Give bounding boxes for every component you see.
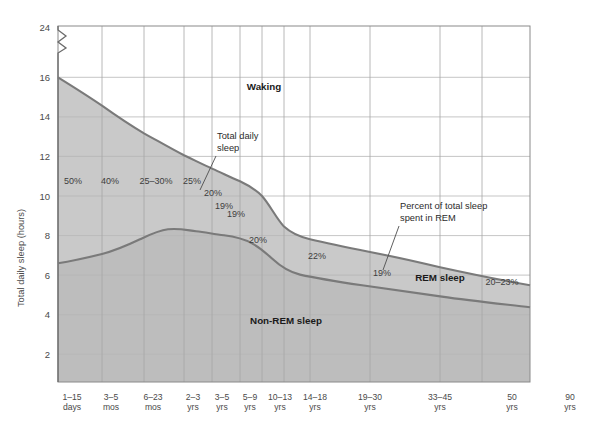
x-tick-1-line1: 3–5 bbox=[104, 392, 119, 402]
x-tick-6-line2: yrs bbox=[274, 402, 285, 412]
y-tick-8: 8 bbox=[45, 230, 50, 241]
y-tick-12: 12 bbox=[39, 151, 50, 162]
x-tick-6-line1: 10–13 bbox=[268, 392, 292, 402]
x-tick-4-line1: 3–5 bbox=[215, 392, 230, 402]
x-tick-8-line2: yrs bbox=[364, 402, 375, 412]
y-axis-title: Total daily sleep (hours) bbox=[16, 209, 26, 307]
y-tick-24: 24 bbox=[39, 22, 50, 33]
pct-label-25: 25% bbox=[183, 176, 201, 186]
pct-label-20a: 20% bbox=[204, 188, 222, 198]
region-label-non-rem-sleep: Non-REM sleep bbox=[250, 315, 322, 326]
x-tick-11-line1: 90 bbox=[565, 392, 575, 402]
x-tick-3-line1: 2–3 bbox=[186, 392, 201, 402]
pct-label-19b: 19% bbox=[227, 209, 245, 219]
pct-label-19c: 19% bbox=[373, 268, 391, 278]
y-tick-14: 14 bbox=[39, 111, 50, 122]
x-tick-2-line2: mos bbox=[145, 402, 161, 412]
chart-svg: 24 16 14 12 10 8 6 4 2 Total daily sleep… bbox=[0, 0, 594, 431]
region-label-rem-sleep: REM sleep bbox=[415, 272, 465, 283]
x-tick-5-line2: yrs bbox=[244, 402, 255, 412]
x-tick-0-line2: days bbox=[63, 402, 81, 412]
y-tick-4: 4 bbox=[45, 309, 50, 320]
x-tick-7-line1: 14–18 bbox=[303, 392, 327, 402]
callout-total-daily-line2: sleep bbox=[217, 143, 239, 153]
pct-label-20b: 20% bbox=[249, 235, 267, 245]
x-tick-4-line2: yrs bbox=[216, 402, 227, 412]
callout-percent-rem-line2: spent in REM bbox=[400, 213, 456, 223]
y-tick-10: 10 bbox=[39, 191, 50, 202]
pct-label-20-23: 20–23% bbox=[485, 277, 518, 287]
x-tick-10-line1: 50 bbox=[507, 392, 517, 402]
pct-label-40: 40% bbox=[101, 176, 119, 186]
x-tick-5-line1: 5–9 bbox=[243, 392, 258, 402]
sleep-chart-figure: 24 16 14 12 10 8 6 4 2 Total daily sleep… bbox=[0, 0, 594, 431]
pct-label-22: 22% bbox=[308, 251, 326, 261]
pct-label-50: 50% bbox=[64, 176, 82, 186]
x-tick-3-line2: yrs bbox=[187, 402, 198, 412]
y-tick-6: 6 bbox=[45, 270, 50, 281]
x-tick-0-line1: 1–15 bbox=[62, 392, 81, 402]
y-tick-16: 16 bbox=[39, 72, 50, 83]
region-label-waking: Waking bbox=[247, 81, 281, 92]
x-tick-9-line2: yrs bbox=[434, 402, 445, 412]
callout-percent-rem-line1: Percent of total sleep bbox=[400, 201, 487, 211]
x-tick-2-line1: 6–23 bbox=[143, 392, 162, 402]
callout-total-daily-line1: Total daily bbox=[217, 131, 259, 141]
x-tick-labels: 1–15 days 3–5 mos 6–23 mos 2–3 yrs 3–5 y… bbox=[62, 392, 575, 412]
x-tick-10-line2: yrs bbox=[506, 402, 517, 412]
x-tick-11-line2: yrs bbox=[564, 402, 575, 412]
pct-label-25-30: 25–30% bbox=[139, 176, 172, 186]
y-tick-2: 2 bbox=[45, 349, 50, 360]
x-tick-8-line1: 19–30 bbox=[358, 392, 382, 402]
x-tick-7-line2: yrs bbox=[309, 402, 320, 412]
x-tick-9-line1: 33–45 bbox=[428, 392, 452, 402]
x-tick-1-line2: mos bbox=[103, 402, 119, 412]
